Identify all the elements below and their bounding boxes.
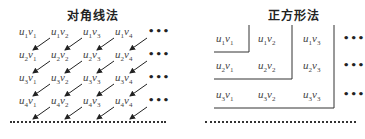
square-bottom-dots: [205, 121, 356, 123]
square-cell: u2v2: [258, 59, 275, 74]
square-cell: u3v3: [303, 88, 320, 103]
diagonal-bottom-dots: [10, 121, 166, 123]
square-cell: u3v2: [258, 88, 275, 103]
square-cell: u1v1: [216, 32, 233, 47]
square-cell: u2v3: [303, 59, 320, 74]
square-cell: u1v3: [303, 32, 320, 47]
ellipsis: •••: [343, 32, 365, 43]
square-title: 正方形法: [268, 6, 320, 23]
square-cell: u2v1: [216, 59, 233, 74]
square-cell: u1v2: [258, 32, 275, 47]
ellipsis: •••: [343, 59, 365, 70]
ellipsis: •••: [343, 88, 365, 99]
square-cell: u3v1: [216, 88, 233, 103]
